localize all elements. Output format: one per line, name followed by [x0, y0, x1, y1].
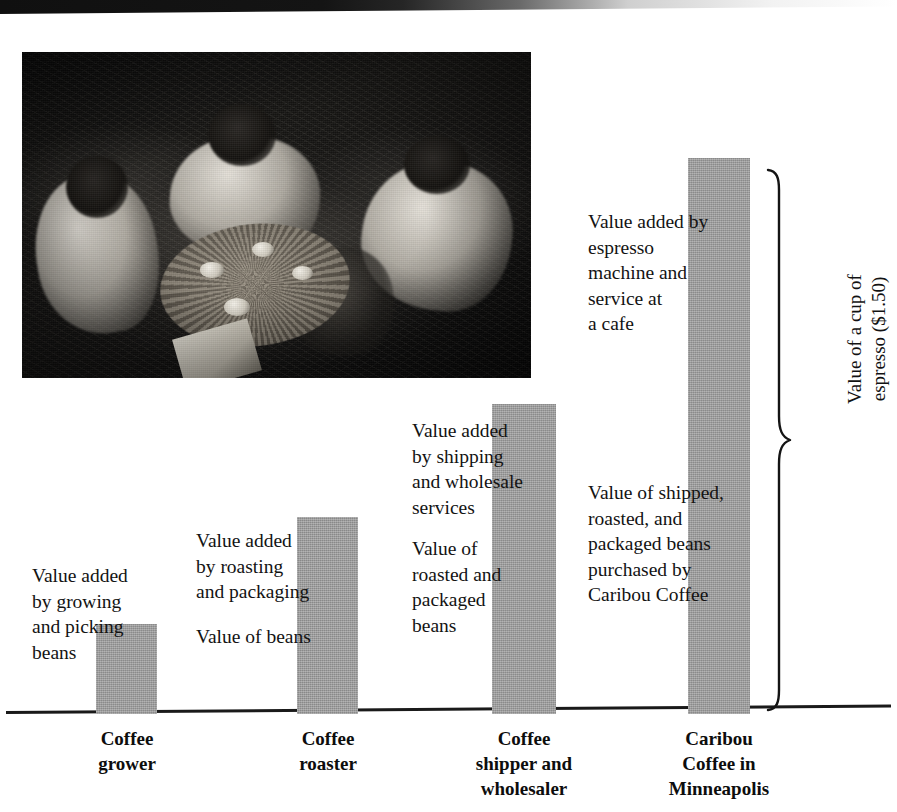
cafe-photograph	[22, 52, 531, 378]
annotation-shipper-value-of-beans: Value of roasted and packaged beans	[412, 536, 532, 638]
annotation-roaster-value-added: Value added by roasting and packaging	[196, 528, 364, 605]
x-axis-label-caribou-coffee: Caribou Coffee in Minneapolis	[639, 726, 799, 801]
annotation-roaster-value-of-beans: Value of beans	[196, 624, 376, 650]
scan-edge-artifact	[0, 0, 897, 14]
annotation-caribou-value-added: Value added by espresso machine and serv…	[588, 209, 733, 337]
annotation-caribou-value-of-beans: Value of shipped, roasted, and packaged …	[588, 480, 768, 608]
brace-caption-cup-value: Value of a cup of espresso ($1.50)	[843, 214, 891, 464]
annotation-shipper-value-added: Value added by shipping and wholesale se…	[412, 418, 572, 520]
x-axis-label-coffee-shipper: Coffee shipper and wholesaler	[444, 726, 604, 801]
annotation-grower-value-added: Value added by growing and picking beans	[32, 563, 182, 665]
x-axis-label-coffee-roaster: Coffee roaster	[248, 726, 408, 776]
x-axis-label-coffee-grower: Coffee grower	[47, 726, 207, 776]
right-curly-brace	[766, 168, 792, 712]
photo-vignette	[22, 52, 531, 378]
